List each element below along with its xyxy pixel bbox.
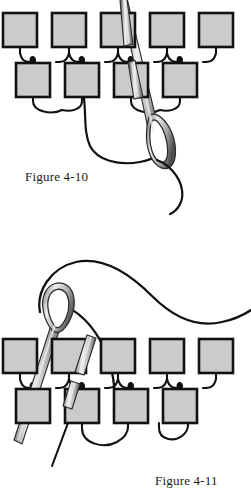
bead <box>114 389 148 423</box>
bead <box>150 13 184 47</box>
figure-4-11-panel <box>0 244 251 487</box>
bead <box>199 339 233 373</box>
bead <box>101 339 135 373</box>
bead <box>16 63 50 97</box>
figure-4-10-beads <box>0 0 251 244</box>
bead <box>3 13 37 47</box>
bead <box>16 389 50 423</box>
bead-row-top <box>3 13 233 47</box>
bead <box>163 63 197 97</box>
figure-caption-bottom: Figure 4-11 <box>155 473 218 489</box>
bead <box>3 339 37 373</box>
bead-row-bottom <box>16 63 197 97</box>
bead <box>163 389 197 423</box>
figure-4-11-beads <box>0 244 251 487</box>
bead <box>52 13 86 47</box>
figure-caption-top: Figure 4-10 <box>25 169 88 185</box>
bead <box>150 339 184 373</box>
bead <box>65 63 99 97</box>
bead-row-bottom <box>16 389 197 423</box>
figure-4-10-panel <box>0 0 251 244</box>
bead-row-top <box>3 339 233 373</box>
bead <box>199 13 233 47</box>
